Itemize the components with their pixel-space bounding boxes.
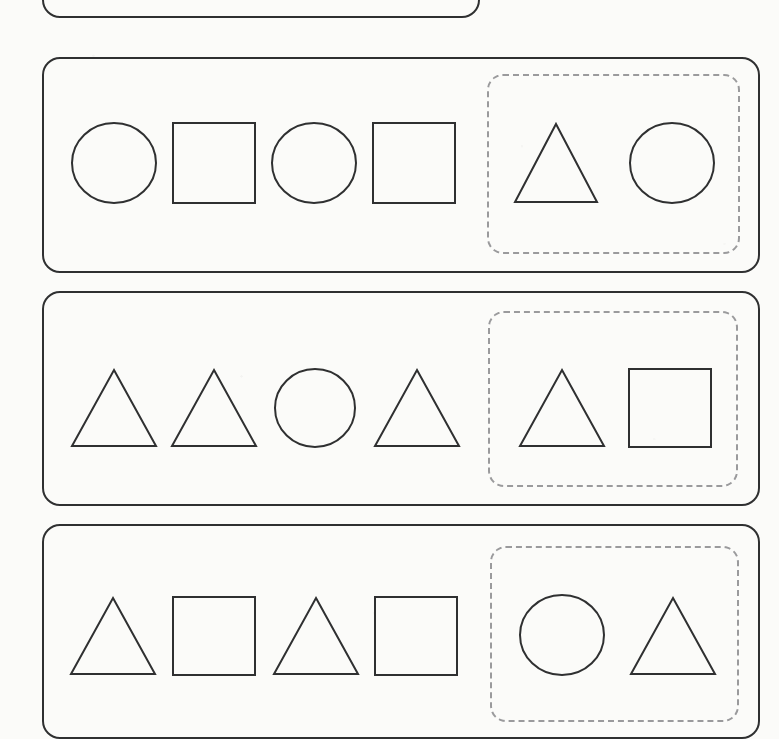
sequence-shape-triangle — [170, 368, 258, 448]
answer-option-circle[interactable] — [629, 122, 715, 204]
answer-option-circle[interactable] — [519, 594, 605, 676]
sequence-shape-triangle — [272, 596, 360, 676]
sequence-shape-square — [172, 122, 256, 204]
pattern-card-0[interactable] — [42, 0, 480, 18]
sequence-shape-triangle — [70, 368, 158, 448]
sequence-shape-circle — [273, 368, 357, 448]
answer-option-square[interactable] — [628, 368, 712, 448]
sequence-shape-square — [372, 122, 456, 204]
answer-option-triangle[interactable] — [513, 122, 599, 204]
sequence-shape-square — [374, 596, 458, 676]
sequence-shape-square — [172, 596, 256, 676]
sequence-shape-circle — [271, 122, 357, 204]
answer-option-triangle[interactable] — [518, 368, 606, 448]
sequence-shape-triangle — [69, 596, 157, 676]
sequence-shape-circle — [71, 122, 157, 204]
sequence-shape-triangle — [373, 368, 461, 448]
answer-option-triangle[interactable] — [629, 596, 717, 676]
